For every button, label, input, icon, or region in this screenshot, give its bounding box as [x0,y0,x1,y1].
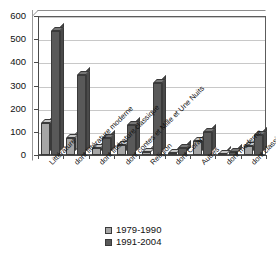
x-axis-label: Religion [149,142,174,167]
bar-chart: 0100200300400500600 Littératuredont litt… [0,0,276,269]
x-axis-label: Littérature [48,137,78,167]
legend-swatch-1991-2004 [105,239,112,246]
x-tick-mark [38,155,39,159]
chart-legend: 1979-1990 1991-2004 [105,224,161,248]
legend-label-1979-1990: 1979-1990 [116,225,161,235]
legend-swatch-1979-1990 [105,227,112,234]
legend-item[interactable]: 1991-2004 [105,236,161,248]
legend-label-1991-2004: 1991-2004 [116,237,161,247]
x-axis-label: Autres [200,146,221,167]
legend-item[interactable]: 1979-1990 [105,224,161,236]
